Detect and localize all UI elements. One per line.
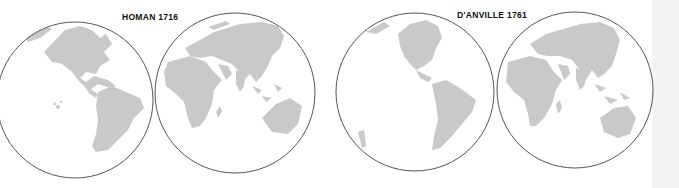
map-comparison-figure: HOMAN 1716 D'ANVILLE 1761 bbox=[0, 0, 679, 188]
danville-eastern-hemisphere bbox=[497, 12, 653, 168]
danville-map-title: D'ANVILLE 1761 bbox=[457, 10, 527, 20]
hemisphere-maps bbox=[0, 0, 679, 188]
homan-western-hemisphere bbox=[0, 22, 153, 178]
homan-eastern-hemisphere bbox=[155, 13, 315, 173]
danville-western-hemisphere bbox=[336, 13, 494, 171]
homan-map-title: HOMAN 1716 bbox=[122, 12, 178, 22]
